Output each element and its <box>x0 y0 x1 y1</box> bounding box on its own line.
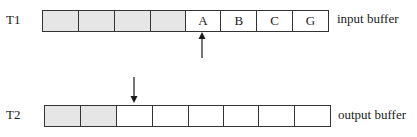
input-buffer-label: input buffer <box>337 11 399 27</box>
output-cell-7 <box>259 106 295 126</box>
input-cell-2 <box>79 11 115 31</box>
tape-label-t2: T2 <box>6 107 20 123</box>
input-cell-7: C <box>257 11 293 31</box>
input-cell-3 <box>115 11 151 31</box>
input-pointer-arrow-icon <box>196 31 208 59</box>
input-cell-4 <box>151 11 186 31</box>
input-cell-1 <box>43 11 79 31</box>
tape-label-t1: T1 <box>6 12 20 28</box>
output-buffer-tape <box>44 105 331 127</box>
output-cell-4 <box>153 106 189 126</box>
output-pointer-arrow-icon <box>128 76 140 104</box>
output-cell-5 <box>189 106 225 126</box>
output-cell-6 <box>224 106 259 126</box>
input-cell-6: B <box>221 11 257 31</box>
input-cell-5: A <box>186 11 222 31</box>
input-buffer-tape: A B C G <box>42 10 329 32</box>
output-cell-2 <box>81 106 117 126</box>
output-cell-3 <box>117 106 153 126</box>
output-cell-8 <box>295 106 330 126</box>
input-cell-8: G <box>293 11 328 31</box>
output-buffer-label: output buffer <box>338 107 406 123</box>
output-cell-1 <box>45 106 81 126</box>
